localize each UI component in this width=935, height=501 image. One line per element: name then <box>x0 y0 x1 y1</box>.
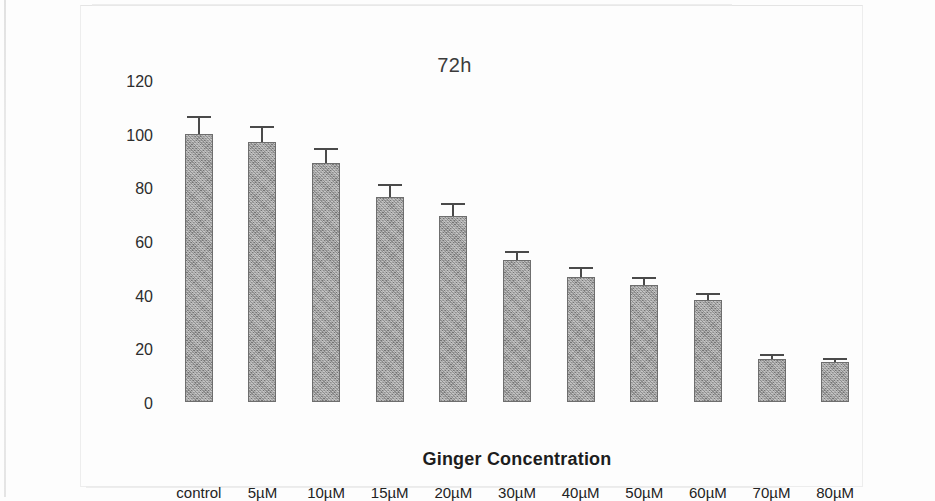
bar <box>312 163 340 402</box>
bar <box>694 300 722 402</box>
chart-title-text: 72h <box>437 54 471 76</box>
bar-group <box>741 80 803 402</box>
x-axis-title: Ginger Concentration <box>167 449 867 470</box>
bar-group <box>677 80 739 402</box>
bar-group <box>486 80 548 402</box>
error-bar-cap <box>632 277 656 279</box>
y-axis-tick-label: 20 <box>95 341 153 359</box>
bar-group <box>804 80 866 402</box>
error-bar-line <box>325 150 327 163</box>
error-bar-line <box>643 279 645 286</box>
error-bar-cap <box>505 251 529 253</box>
plot-area: Cell Viability % 020406080100120 control… <box>167 80 867 402</box>
bar <box>248 142 276 402</box>
y-axis-tick-label: 60 <box>95 234 153 252</box>
error-bar-cap <box>314 148 338 150</box>
error-bar-cap <box>569 267 593 269</box>
bar-group <box>422 80 484 402</box>
error-bar-line <box>707 295 709 300</box>
y-axis-tick-label: 100 <box>95 127 153 145</box>
y-axis-tick-label: 120 <box>95 73 153 91</box>
bar <box>503 260 531 402</box>
y-axis-tick-label: 80 <box>95 180 153 198</box>
bar-group <box>359 80 421 402</box>
bar-group <box>168 80 230 402</box>
error-bar-line <box>198 118 200 134</box>
bar-group <box>231 80 293 402</box>
bar <box>185 134 213 402</box>
bar <box>376 197 404 402</box>
bar <box>821 362 849 402</box>
bar-group <box>295 80 357 402</box>
bar <box>630 285 658 402</box>
error-bar-cap <box>760 354 784 356</box>
y-axis-tick-label: 0 <box>95 395 153 413</box>
y-axis-tick-label: 40 <box>95 288 153 306</box>
error-bar-cap <box>378 184 402 186</box>
error-bar-cap <box>696 293 720 295</box>
error-bar-cap <box>250 126 274 128</box>
error-bar-line <box>834 360 836 362</box>
bar <box>567 277 595 402</box>
error-bar-cap <box>187 116 211 118</box>
error-bar-line <box>261 128 263 141</box>
bar <box>439 216 467 402</box>
bar <box>758 359 786 402</box>
bar-group <box>550 80 612 402</box>
error-bar-line <box>452 205 454 216</box>
x-axis-tick-label: 80µM <box>793 484 877 501</box>
error-bar-cap <box>823 358 847 360</box>
bar-group <box>613 80 675 402</box>
error-bar-line <box>580 269 582 277</box>
error-bar-line <box>516 253 518 260</box>
error-bar-line <box>771 356 773 359</box>
error-bar-cap <box>441 203 465 205</box>
error-bar-line <box>389 186 391 197</box>
